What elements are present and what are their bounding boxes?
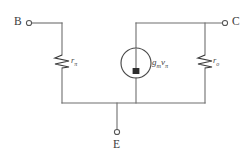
circuit-diagram-hybrid-pi: B C E rπ ro gmvπ <box>0 0 252 162</box>
r-pi-resistor-symbol <box>55 55 69 68</box>
r-o-label: ro <box>213 56 219 67</box>
r-pi-label-subscript: π <box>74 61 77 67</box>
circuit-schematic-svg <box>0 0 252 162</box>
terminal-label-collector: C <box>232 16 240 28</box>
current-source-arrow-head <box>133 68 140 74</box>
dependent-source-label: gmvπ <box>152 58 168 69</box>
dependent-current-source-symbol <box>121 48 151 78</box>
terminal-label-emitter: E <box>113 139 120 151</box>
r-o-resistor-symbol <box>198 55 212 68</box>
r-o-label-subscript: o <box>216 61 219 67</box>
collector-terminal-node[interactable] <box>222 20 227 25</box>
emitter-terminal-node[interactable] <box>114 129 119 134</box>
r-o-zigzag-path <box>198 55 212 68</box>
source-label-v-subscript: π <box>165 62 168 69</box>
terminal-label-base: B <box>14 16 22 28</box>
collector-branch-wires <box>136 23 222 103</box>
r-pi-zigzag-path <box>55 55 69 68</box>
terminal-nodes <box>26 20 227 134</box>
r-pi-label: rπ <box>71 56 77 67</box>
base-terminal-node[interactable] <box>26 20 31 25</box>
emitter-rail-wires <box>62 103 205 130</box>
